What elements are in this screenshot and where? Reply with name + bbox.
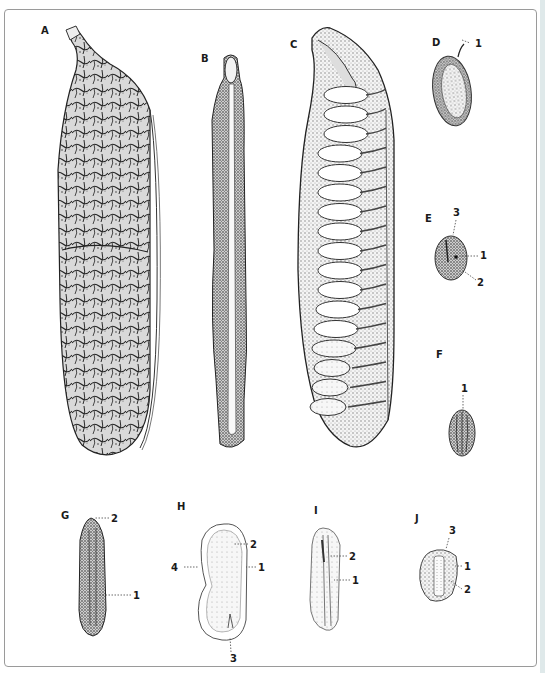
panel-label-g: G bbox=[61, 510, 69, 521]
panel-label-j: J bbox=[414, 513, 419, 524]
panel-d-seed bbox=[428, 44, 475, 128]
annotation-number-e-2: 2 bbox=[477, 277, 484, 288]
seed-in-pod bbox=[310, 399, 346, 416]
seed-in-pod bbox=[318, 243, 362, 260]
seed-in-pod bbox=[318, 282, 362, 299]
panel-g-seed bbox=[79, 518, 106, 636]
panel-b-pod-edge bbox=[212, 55, 247, 447]
panel-h-seed-section bbox=[198, 524, 247, 640]
seed-in-pod bbox=[324, 126, 368, 143]
seed-in-pod bbox=[312, 340, 356, 357]
panel-a-pod-exterior bbox=[58, 26, 160, 455]
annotation-number-i-1: 1 bbox=[352, 575, 359, 586]
annotation-number-g-2: 2 bbox=[111, 513, 118, 524]
annotation-number-h-1: 1 bbox=[258, 562, 265, 573]
botanical-plate: ABCDEFGHIJ 1312121214321312 bbox=[0, 0, 545, 673]
seed-in-pod bbox=[324, 106, 368, 123]
leader-line bbox=[453, 220, 456, 235]
annotation-number-j-2: 2 bbox=[464, 584, 471, 595]
panel-c-pod-section bbox=[298, 28, 394, 447]
seed-in-pod bbox=[318, 145, 362, 162]
seed-in-pod bbox=[318, 184, 362, 201]
panel-label-b: B bbox=[201, 53, 209, 64]
panel-f-seed bbox=[449, 410, 475, 456]
annotation-number-h-2: 2 bbox=[250, 539, 257, 550]
seed-in-pod bbox=[318, 223, 362, 240]
panel-label-f: F bbox=[436, 349, 443, 360]
panel-label-a: A bbox=[41, 25, 49, 36]
annotation-number-e-1: 1 bbox=[480, 250, 487, 261]
annotation-number-d-1: 1 bbox=[475, 38, 482, 49]
seed-in-pod bbox=[324, 87, 368, 104]
leader-line bbox=[465, 272, 476, 280]
panel-label-d: D bbox=[432, 37, 440, 48]
annotation-number-j-3: 3 bbox=[449, 525, 456, 536]
annotation-number-h-4: 4 bbox=[171, 562, 178, 573]
annotation-leader-lines bbox=[94, 40, 478, 652]
panel-label-e: E bbox=[425, 213, 432, 224]
seed-in-pod bbox=[316, 301, 360, 318]
annotation-number-i-2: 2 bbox=[349, 551, 356, 562]
seed-in-pod bbox=[318, 262, 362, 279]
annotation-number-e-3: 3 bbox=[453, 207, 460, 218]
panel-j-seed-section bbox=[420, 550, 458, 601]
seed-in-pod bbox=[312, 379, 348, 396]
seed-in-pod bbox=[318, 165, 362, 182]
leader-line bbox=[446, 538, 449, 549]
panel-label-c: C bbox=[290, 39, 297, 50]
seed-in-pod bbox=[318, 204, 362, 221]
annotation-number-h-3: 3 bbox=[230, 653, 237, 664]
panel-label-h: H bbox=[177, 501, 185, 512]
panel-e-seed bbox=[435, 236, 467, 280]
seed-in-pod bbox=[314, 360, 350, 377]
annotation-number-j-1: 1 bbox=[464, 561, 471, 572]
seed-in-pod bbox=[314, 321, 358, 338]
annotation-number-f-1: 1 bbox=[461, 383, 468, 394]
panel-i-seed-section bbox=[310, 528, 340, 630]
panel-label-i: I bbox=[314, 505, 318, 516]
annotation-number-g-1: 1 bbox=[133, 590, 140, 601]
leader-line bbox=[462, 40, 470, 43]
